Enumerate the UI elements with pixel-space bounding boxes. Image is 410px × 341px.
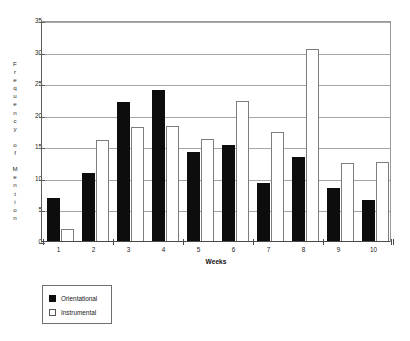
bar-group xyxy=(182,22,217,242)
bar-group xyxy=(357,22,392,242)
bar-orientational-week-3 xyxy=(117,102,131,242)
x-axis-tick-label: 7 xyxy=(258,246,280,254)
x-axis-tick-label: 10 xyxy=(363,246,385,254)
bar-group xyxy=(217,22,252,242)
x-axis-tick-mark xyxy=(393,239,394,245)
legend-item-label: Orientational xyxy=(61,295,97,302)
y-axis-tick-label: 5 xyxy=(24,207,42,213)
outlined-square-icon xyxy=(49,309,56,316)
bar-orientational-week-7 xyxy=(257,183,271,242)
x-axis-tick-mark xyxy=(391,239,392,245)
bars-layer xyxy=(42,22,390,242)
bar-group xyxy=(112,22,147,242)
bar-group xyxy=(287,22,322,242)
bar-orientational-week-9 xyxy=(327,188,341,242)
bar-orientational-week-5 xyxy=(187,152,201,242)
x-axis-tick-label: 2 xyxy=(83,246,105,254)
y-axis-tick-labels: 05101520253035 xyxy=(22,0,42,341)
x-axis-tick-label: 5 xyxy=(188,246,210,254)
bar-instrumental-week-7 xyxy=(271,132,285,242)
x-axis-tick-labels: 12345678910 xyxy=(41,246,391,258)
bar-orientational-week-2 xyxy=(82,173,96,242)
bar-instrumental-week-9 xyxy=(341,163,355,242)
legend-item-instrumental[interactable]: Instrumental xyxy=(49,305,111,319)
x-axis-tick-label: 6 xyxy=(223,246,245,254)
bar-chart: F r e q u e n c y o f M e n t i o n 0510… xyxy=(0,0,410,341)
y-axis-tick-label: 25 xyxy=(24,81,42,87)
bar-group xyxy=(322,22,357,242)
bar-group xyxy=(42,22,77,242)
y-axis-tick-label: 0 xyxy=(24,239,42,245)
bar-group xyxy=(147,22,182,242)
bar-instrumental-week-2 xyxy=(96,140,110,242)
y-axis-tick-label: 30 xyxy=(24,49,42,55)
x-axis-tick-label: 1 xyxy=(48,246,70,254)
legend: OrientationalInstrumental xyxy=(42,285,112,324)
y-axis-tick-label: 10 xyxy=(24,176,42,182)
bar-instrumental-week-10 xyxy=(376,162,390,242)
bar-instrumental-week-3 xyxy=(131,127,145,242)
bar-group xyxy=(77,22,112,242)
x-axis-tick-label: 8 xyxy=(293,246,315,254)
bar-orientational-week-6 xyxy=(222,145,236,242)
filled-square-icon xyxy=(49,295,56,302)
bar-instrumental-week-5 xyxy=(201,139,215,242)
y-axis-tick-label: 20 xyxy=(24,113,42,119)
x-axis-tick-label: 9 xyxy=(328,246,350,254)
x-axis-title: Weeks xyxy=(41,258,391,265)
bar-orientational-week-8 xyxy=(292,157,306,242)
x-axis-tick-label: 4 xyxy=(153,246,175,254)
bar-instrumental-week-6 xyxy=(236,101,250,242)
category-axis-line xyxy=(42,241,390,242)
bar-orientational-week-10 xyxy=(362,200,376,242)
y-axis-title: F r e q u e n c y o f M e n t i o n xyxy=(8,60,22,222)
legend-item-orientational[interactable]: Orientational xyxy=(49,291,111,305)
x-axis-tick-label: 3 xyxy=(118,246,140,254)
x-axis-tick-mark xyxy=(43,239,44,245)
y-axis-tick-label: 35 xyxy=(24,18,42,24)
plot-area xyxy=(41,21,391,242)
bar-orientational-week-4 xyxy=(152,90,166,242)
y-axis-tick-mark xyxy=(39,243,45,244)
bar-instrumental-week-4 xyxy=(166,126,180,242)
bar-instrumental-week-8 xyxy=(306,49,320,242)
y-axis-tick-label: 15 xyxy=(24,144,42,150)
bar-group xyxy=(252,22,287,242)
legend-item-label: Instrumental xyxy=(61,309,96,316)
bar-orientational-week-1 xyxy=(47,198,61,242)
